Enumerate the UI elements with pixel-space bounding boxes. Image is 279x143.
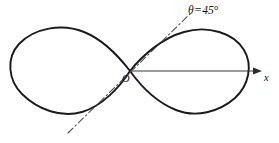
origin-label: O [122,74,130,85]
degree-symbol: ° [214,4,219,16]
theta-angle-label: θ=45° [188,5,218,17]
theta-value: 45 [202,4,214,16]
figure-container: θ=45° O x [0,0,279,143]
tangent-line-45deg [68,12,192,133]
curve-left-lobe [10,28,130,114]
x-axis-arrowhead [253,68,262,75]
theta-symbol: θ [188,4,194,16]
lemniscate-figure-svg [0,0,279,143]
equals-sign: = [195,4,202,16]
x-axis-label: x [264,73,269,84]
